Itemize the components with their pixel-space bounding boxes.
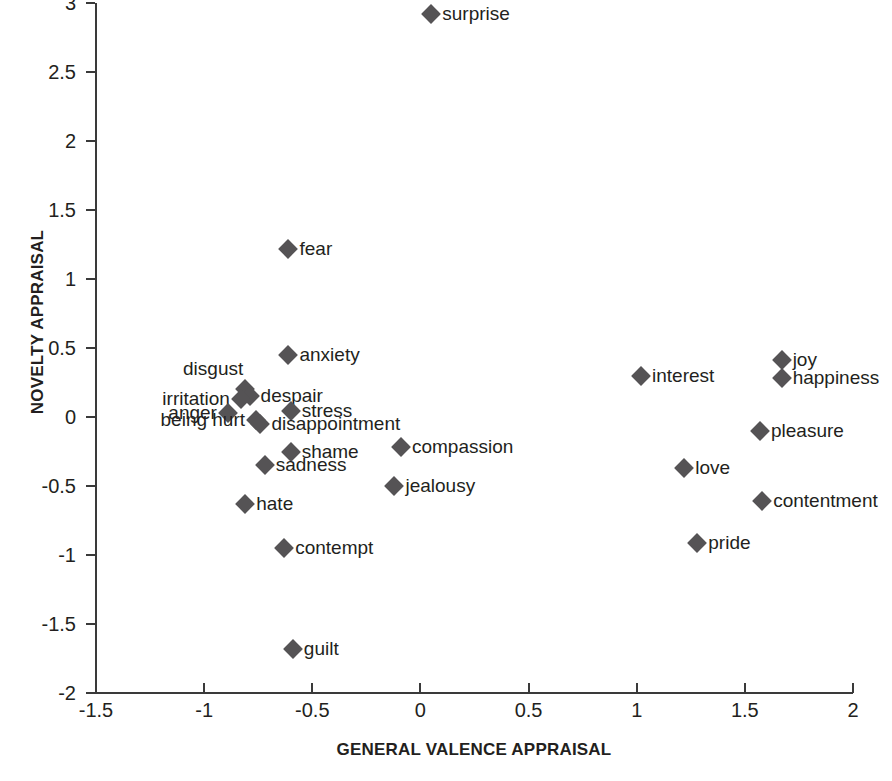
y-tick-mark	[86, 347, 95, 349]
diamond-marker-icon	[421, 4, 441, 24]
diamond-marker-icon	[391, 437, 411, 457]
diamond-marker-icon	[674, 458, 694, 478]
x-tick-label: -0.5	[282, 700, 342, 720]
diamond-marker-icon	[279, 345, 299, 365]
y-tick-mark	[86, 416, 95, 418]
x-tick-label: 1	[607, 700, 667, 720]
y-tick-mark	[86, 485, 95, 487]
diamond-marker-icon	[255, 455, 275, 475]
data-point-label: compassion	[412, 437, 513, 456]
diamond-marker-icon	[385, 476, 405, 496]
y-axis-line	[95, 3, 97, 694]
y-tick-label: -1	[32, 545, 76, 565]
diamond-marker-icon	[750, 421, 770, 441]
x-tick-label: -1.5	[66, 700, 126, 720]
diamond-marker-icon	[772, 368, 792, 388]
y-tick-mark	[86, 2, 95, 4]
x-axis-line	[95, 692, 853, 694]
x-axis-title: GENERAL VALENCE APPRAISAL	[95, 740, 853, 760]
data-point-label: interest	[652, 366, 714, 385]
y-tick-label: 0.5	[32, 338, 76, 358]
data-point-label: anxiety	[299, 345, 359, 364]
data-point-label: sadness	[276, 455, 347, 474]
y-tick-mark	[86, 140, 95, 142]
data-point-label: happiness	[793, 368, 880, 387]
x-tick-mark	[744, 683, 746, 693]
data-point-label: being hurt	[161, 410, 246, 429]
data-point-label: pride	[708, 533, 750, 552]
y-tick-label: 2	[32, 131, 76, 151]
y-tick-label: 1.5	[32, 200, 76, 220]
data-point-label: disappointment	[271, 414, 400, 433]
y-tick-label: 3	[32, 0, 76, 13]
x-tick-label: 0.5	[499, 700, 559, 720]
data-point-label: contentment	[773, 491, 878, 510]
y-tick-mark	[86, 278, 95, 280]
data-point-label: hate	[256, 494, 293, 513]
diamond-marker-icon	[752, 491, 772, 511]
diamond-marker-icon	[283, 639, 303, 659]
y-tick-mark	[86, 554, 95, 556]
x-tick-mark	[95, 683, 97, 693]
y-tick-label: -1.5	[32, 614, 76, 634]
data-point-label: love	[695, 458, 730, 477]
x-tick-label: 1.5	[715, 700, 775, 720]
x-tick-mark	[852, 683, 854, 693]
x-tick-mark	[636, 683, 638, 693]
data-point-label: contempt	[295, 538, 373, 557]
x-tick-mark	[419, 683, 421, 693]
x-tick-label: 2	[823, 700, 883, 720]
diamond-marker-icon	[274, 538, 294, 558]
y-tick-mark	[86, 71, 95, 73]
data-point-label: fear	[299, 239, 332, 258]
scatter-plot-figure: NOVELTY APPRAISAL GENERAL VALENCE APPRAI…	[0, 0, 892, 781]
y-tick-mark	[86, 209, 95, 211]
data-point-label: disgust	[183, 359, 243, 378]
diamond-marker-icon	[631, 366, 651, 386]
data-point-label: jealousy	[405, 476, 475, 495]
x-tick-mark	[528, 683, 530, 693]
diamond-marker-icon	[687, 533, 707, 553]
diamond-marker-icon	[235, 494, 255, 514]
y-tick-label: -0.5	[32, 476, 76, 496]
y-tick-label: 1	[32, 269, 76, 289]
diamond-marker-icon	[279, 239, 299, 259]
y-tick-label: 2.5	[32, 62, 76, 82]
x-tick-mark	[203, 683, 205, 693]
y-tick-mark	[86, 623, 95, 625]
x-tick-mark	[311, 683, 313, 693]
data-point-label: surprise	[442, 4, 510, 23]
x-tick-label: -1	[174, 700, 234, 720]
y-tick-label: 0	[32, 407, 76, 427]
y-tick-mark	[86, 692, 95, 694]
data-point-label: pleasure	[771, 421, 844, 440]
x-tick-label: 0	[390, 700, 450, 720]
data-point-label: guilt	[304, 639, 339, 658]
